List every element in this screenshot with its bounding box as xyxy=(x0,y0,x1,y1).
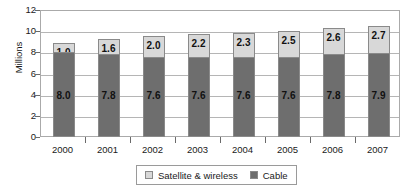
bar-value-label: 2.5 xyxy=(279,35,299,46)
bar-value-label: 2.7 xyxy=(369,30,389,41)
bar-group[interactable]: 1.08.0 xyxy=(41,11,86,136)
bar-value-label: 7.8 xyxy=(324,90,344,101)
bar-segment-cable[interactable]: 7.6 xyxy=(278,57,300,137)
bar-segment-cable[interactable]: 7.6 xyxy=(188,57,210,137)
x-axis-tick-label: 2006 xyxy=(310,144,355,156)
bar-stack[interactable]: 2.07.6 xyxy=(143,36,165,136)
bar-segment-cable[interactable]: 7.6 xyxy=(233,57,255,137)
x-axis-tick-label: 2007 xyxy=(355,144,400,156)
bar-group[interactable]: 2.77.9 xyxy=(356,11,401,136)
bar-stack[interactable]: 2.27.6 xyxy=(188,34,210,136)
x-axis-tick-mark xyxy=(220,137,221,143)
bar-value-label: 8.0 xyxy=(54,90,74,101)
bar-segment-cable[interactable]: 7.9 xyxy=(368,53,390,137)
plot-area: 1.08.01.67.82.07.62.27.62.37.62.57.62.67… xyxy=(40,10,400,137)
stacked-bar-chart: Millions 024681012 1.08.01.67.82.07.62.2… xyxy=(0,0,415,192)
bar-value-label: 7.8 xyxy=(99,90,119,101)
legend-swatch-icon xyxy=(250,171,258,179)
bar-segment-satellite-wireless[interactable]: 2.3 xyxy=(233,33,255,57)
x-axis-tick-mark xyxy=(85,137,86,143)
y-axis-tick-marks xyxy=(0,10,41,137)
bar-value-label: 2.0 xyxy=(144,40,164,51)
legend-label: Satellite & wireless xyxy=(158,170,238,181)
bar-stack[interactable]: 2.77.9 xyxy=(368,26,390,136)
bar-series-container: 1.08.01.67.82.07.62.27.62.37.62.57.62.67… xyxy=(41,11,399,136)
bar-value-label: 2.6 xyxy=(324,32,344,43)
bar-group[interactable]: 2.67.8 xyxy=(311,11,356,136)
bar-stack[interactable]: 1.67.8 xyxy=(98,39,120,136)
bar-segment-satellite-wireless[interactable]: 2.6 xyxy=(323,28,345,56)
bar-stack[interactable]: 2.37.6 xyxy=(233,33,255,136)
x-axis-tick-label: 2001 xyxy=(85,144,130,156)
x-axis-tick-label: 2000 xyxy=(40,144,85,156)
x-axis-tick-label: 2003 xyxy=(175,144,220,156)
bar-segment-satellite-wireless[interactable]: 2.0 xyxy=(143,36,165,57)
bar-group[interactable]: 2.07.6 xyxy=(131,11,176,136)
legend-label: Cable xyxy=(263,170,288,181)
chart-legend: Satellite & wirelessCable xyxy=(136,165,297,185)
bar-value-label: 7.6 xyxy=(189,90,209,101)
bar-segment-satellite-wireless[interactable]: 2.7 xyxy=(368,26,390,55)
bar-stack[interactable]: 2.67.8 xyxy=(323,28,345,136)
bar-segment-cable[interactable]: 7.6 xyxy=(143,57,165,137)
bar-value-label: 7.6 xyxy=(234,90,254,101)
bar-segment-cable[interactable]: 7.8 xyxy=(323,54,345,137)
x-axis-tick-label: 2005 xyxy=(265,144,310,156)
bar-group[interactable]: 1.67.8 xyxy=(86,11,131,136)
legend-item[interactable]: Cable xyxy=(250,170,288,181)
bar-value-label: 1.6 xyxy=(99,43,119,54)
x-axis-tick-mark xyxy=(175,137,176,143)
bar-segment-cable[interactable]: 7.8 xyxy=(98,54,120,137)
x-axis-tick-label: 2004 xyxy=(220,144,265,156)
bar-segment-satellite-wireless[interactable]: 1.6 xyxy=(98,39,120,56)
x-axis-tick-label: 2002 xyxy=(130,144,175,156)
bar-segment-satellite-wireless[interactable]: 2.5 xyxy=(278,31,300,57)
bar-value-label: 2.3 xyxy=(234,37,254,48)
legend-item[interactable]: Satellite & wireless xyxy=(145,170,238,181)
bar-group[interactable]: 2.37.6 xyxy=(221,11,266,136)
bar-stack[interactable]: 2.57.6 xyxy=(278,31,300,136)
bar-value-label: 7.6 xyxy=(144,90,164,101)
bar-value-label: 7.6 xyxy=(279,90,299,101)
bar-segment-satellite-wireless[interactable]: 2.2 xyxy=(188,34,210,57)
x-axis-tick-mark xyxy=(265,137,266,143)
legend-swatch-icon xyxy=(145,171,153,179)
bar-stack[interactable]: 1.08.0 xyxy=(53,43,75,136)
x-axis-tick-mark xyxy=(310,137,311,143)
x-axis-tick-mark xyxy=(355,137,356,143)
bar-group[interactable]: 2.27.6 xyxy=(176,11,221,136)
bar-value-label: 2.2 xyxy=(189,38,209,49)
bar-segment-cable[interactable]: 8.0 xyxy=(53,52,75,137)
bar-value-label: 7.9 xyxy=(369,90,389,101)
x-axis-tick-mark xyxy=(130,137,131,143)
x-axis: 20002001200220032004200520062007 xyxy=(40,137,400,159)
bar-group[interactable]: 2.57.6 xyxy=(266,11,311,136)
